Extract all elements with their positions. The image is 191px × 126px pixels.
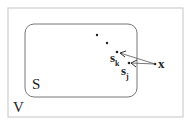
label-S: S [32, 76, 40, 93]
inner-set-S [25, 24, 137, 97]
label-V: V [13, 99, 24, 116]
label-s-k: sk [110, 50, 120, 68]
point-2 [106, 42, 108, 44]
label-s-j: sj [121, 63, 129, 81]
label-x: x [158, 56, 165, 72]
point-1 [96, 34, 98, 36]
